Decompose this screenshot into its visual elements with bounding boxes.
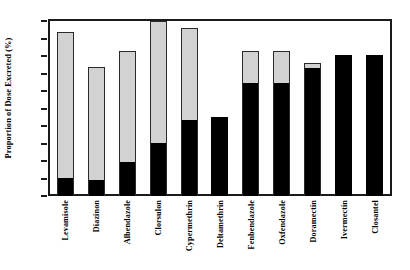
bar-segment-black — [120, 162, 135, 196]
y-tick-mark — [41, 108, 47, 110]
x-label-slot: Levamisole — [50, 198, 81, 268]
bar — [366, 55, 383, 196]
bar-segment-black — [89, 180, 104, 196]
bar — [119, 51, 136, 196]
y-tick-mark — [41, 55, 47, 57]
y-tick-mark — [41, 125, 47, 127]
x-tick-label: Oxfendazole — [277, 200, 286, 245]
y-axis-title: Proportion of Dose Excreted (%) — [0, 0, 16, 196]
bars-container — [50, 21, 390, 196]
x-tick-label: Doramectin — [308, 200, 317, 242]
bar-slot — [359, 21, 390, 196]
y-tick-mark — [41, 160, 47, 162]
x-label-slot: Closantel — [359, 198, 390, 268]
x-tick-label: Cypermethrin — [185, 200, 194, 251]
bar-slot — [266, 21, 297, 196]
x-label-slot: Oxfendazole — [266, 198, 297, 268]
y-tick-mark — [41, 38, 47, 40]
bar — [150, 21, 167, 196]
bar — [88, 67, 105, 197]
x-tick-label: Deltamethrin — [215, 200, 224, 248]
bar — [335, 55, 352, 196]
bar-segment-black — [212, 118, 227, 196]
x-tick-label: Albendazole — [123, 200, 132, 244]
bar-slot — [328, 21, 359, 196]
bar-slot — [143, 21, 174, 196]
bar-segment-black — [58, 178, 73, 196]
bar — [304, 63, 321, 196]
bar-slot — [235, 21, 266, 196]
bar-slot — [81, 21, 112, 196]
y-tick-mark — [41, 143, 47, 145]
x-tick-label: Ivermectin — [339, 200, 348, 239]
y-tick-mark — [41, 178, 47, 180]
x-label-slot: Deltamethrin — [205, 198, 236, 268]
bar-slot — [297, 21, 328, 196]
bar-segment-black — [182, 120, 197, 196]
x-label-slot: Doramectin — [297, 198, 328, 268]
y-tick-mark — [41, 90, 47, 92]
bar-segment-black — [274, 83, 289, 196]
x-axis-labels: LevamisoleDiazinonAlbendazoleClorsulonCy… — [50, 198, 390, 268]
bar-segment-black — [336, 56, 351, 196]
x-label-slot: Clorsulon — [143, 198, 174, 268]
x-label-slot: Fenbendazole — [235, 198, 266, 268]
bar — [242, 51, 259, 196]
x-label-slot: Diazinon — [81, 198, 112, 268]
x-tick-label: Fenbendazole — [246, 200, 255, 249]
bar — [57, 32, 74, 197]
y-tick-mark — [41, 20, 47, 22]
bar-chart: Proportion of Dose Excreted (%) 01020304… — [0, 0, 410, 270]
x-label-slot: Albendazole — [112, 198, 143, 268]
bar-slot — [174, 21, 205, 196]
bar — [273, 51, 290, 196]
y-tick-mark — [41, 73, 47, 75]
bar — [211, 117, 228, 196]
x-tick-label: Levamisole — [61, 200, 70, 241]
bar-slot — [205, 21, 236, 196]
bar-segment-black — [367, 56, 382, 196]
bar-slot — [50, 21, 81, 196]
bar-segment-black — [305, 68, 320, 196]
x-tick-label: Clorsulon — [154, 200, 163, 235]
bar-segment-black — [243, 83, 258, 196]
x-label-slot: Cypermethrin — [174, 198, 205, 268]
x-label-slot: Ivermectin — [328, 198, 359, 268]
bar-slot — [112, 21, 143, 196]
bar-segment-black — [151, 143, 166, 196]
y-tick-mark — [41, 195, 47, 197]
x-tick-label: Diazinon — [92, 200, 101, 232]
x-tick-label: Closantel — [370, 200, 379, 234]
bar — [181, 28, 198, 196]
